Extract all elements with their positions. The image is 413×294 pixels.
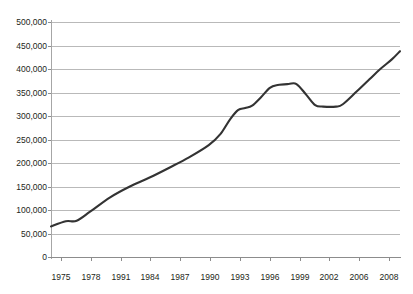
- line-chart-figure: 050,000100,000150,000200,000250,000300,0…: [0, 0, 413, 294]
- data-line-path: [51, 51, 400, 226]
- data-series-line: [0, 0, 413, 294]
